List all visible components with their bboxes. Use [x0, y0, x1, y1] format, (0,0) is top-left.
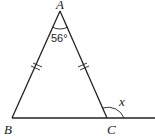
angle-label-a: 56° [51, 32, 68, 44]
angle-arc-a [52, 27, 68, 29]
vertex-label-b: B [4, 122, 12, 137]
angle-label-x: x [118, 94, 125, 109]
triangle-diagram: A B C 56° x [0, 0, 155, 139]
vertex-label-c: C [107, 122, 116, 137]
vertex-label-a: A [55, 0, 64, 12]
